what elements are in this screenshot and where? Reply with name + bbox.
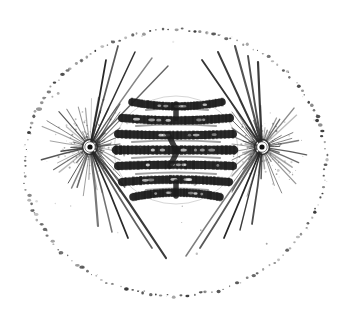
mitosis-figure <box>0 0 351 315</box>
illustration-canvas <box>0 0 351 315</box>
